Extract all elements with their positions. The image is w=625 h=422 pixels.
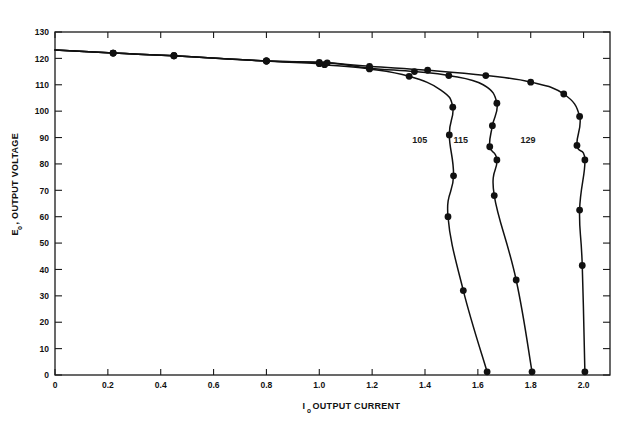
curve-labels: 105115129 [412, 135, 535, 145]
x-tick-label: 0.2 [102, 380, 114, 390]
data-point-105 [449, 104, 456, 111]
x-tick-label: 0 [53, 380, 58, 390]
y-tick-label: 110 [35, 80, 49, 90]
data-point-129 [576, 207, 583, 214]
data-point-115 [411, 68, 418, 75]
y-tick-label: 40 [40, 265, 50, 275]
data-point-129 [171, 52, 178, 59]
curve-label-105: 105 [412, 135, 427, 145]
y-tick-label: 70 [40, 186, 50, 196]
data-point-105 [484, 368, 491, 375]
plot-border [55, 32, 610, 375]
x-axis-ticks: 00.20.40.60.81.01.21.41.61.82.0 [53, 369, 590, 390]
data-point-129 [482, 72, 489, 79]
curve-label-129: 129 [521, 135, 536, 145]
data-point-115 [445, 72, 452, 79]
y-axis-ticks: 0102030405060708090100110120130 [35, 27, 62, 380]
x-tick-label: 1.0 [313, 380, 325, 390]
y-tick-label: 10 [40, 344, 50, 354]
top-axis-ticks [55, 32, 584, 38]
data-point-115 [513, 277, 520, 284]
y-tick-label: 0 [44, 370, 49, 380]
data-point-105 [450, 172, 457, 179]
x-tick-label: 0.8 [261, 380, 273, 390]
axis-titles: IoOUTPUT CURRENTEo, OUTPUT VOLTAGE [10, 133, 400, 413]
y-tick-label: 90 [40, 133, 50, 143]
data-point-115 [489, 122, 496, 129]
data-point-129 [581, 368, 588, 375]
data-point-129 [316, 59, 323, 66]
y-axis-title: Eo, OUTPUT VOLTAGE [10, 133, 23, 235]
curve-129 [55, 50, 585, 372]
y-tick-label: 80 [40, 159, 50, 169]
y-tick-label: 20 [40, 317, 50, 327]
data-curves [55, 50, 585, 372]
data-point-115 [491, 192, 498, 199]
y-axis-title-text: , OUTPUT VOLTAGE [10, 133, 20, 224]
curve-115 [55, 50, 532, 372]
plot-frame [55, 32, 610, 375]
data-point-115 [486, 143, 493, 150]
y-tick-label: 60 [40, 212, 50, 222]
data-point-129 [581, 157, 588, 164]
data-point-129 [574, 142, 581, 149]
x-tick-label: 0.6 [208, 380, 220, 390]
y-tick-label: 130 [35, 27, 49, 37]
x-tick-label: 1.8 [525, 380, 537, 390]
right-axis-ticks [603, 32, 610, 375]
data-point-129 [110, 50, 117, 57]
data-point-105 [406, 73, 413, 80]
y-tick-label: 50 [40, 238, 50, 248]
x-axis-title-text: OUTPUT CURRENT [313, 401, 401, 411]
data-point-115 [493, 157, 500, 164]
x-tick-label: 2.0 [578, 380, 590, 390]
data-markers [110, 50, 589, 376]
data-point-105 [446, 132, 453, 139]
curve-label-115: 115 [453, 135, 468, 145]
data-point-129 [560, 91, 567, 98]
chart-figure: 00.20.40.60.81.01.21.41.61.82.0 01020304… [0, 0, 625, 422]
x-tick-label: 1.6 [472, 380, 484, 390]
x-axis-title-symbol: I [303, 401, 306, 411]
data-point-129 [366, 63, 373, 70]
data-point-129 [576, 113, 583, 120]
x-tick-label: 1.2 [366, 380, 378, 390]
x-tick-label: 0.4 [155, 380, 167, 390]
y-tick-label: 120 [35, 54, 49, 64]
y-tick-label: 100 [35, 106, 49, 116]
y-axis-title-subscript: o [16, 226, 23, 230]
data-point-129 [527, 79, 534, 86]
curve-105 [55, 50, 487, 372]
data-point-129 [263, 58, 270, 65]
data-point-105 [460, 287, 467, 294]
data-point-115 [493, 100, 500, 107]
data-point-129 [424, 67, 431, 74]
x-tick-label: 1.4 [419, 380, 431, 390]
data-point-115 [324, 59, 331, 66]
output-voltage-vs-output-current-chart: 00.20.40.60.81.01.21.41.61.82.0 01020304… [0, 0, 625, 422]
data-point-129 [579, 262, 586, 269]
data-point-105 [445, 213, 452, 220]
data-point-115 [529, 368, 536, 375]
y-tick-label: 30 [40, 291, 50, 301]
x-axis-title-subscript: o [307, 407, 311, 414]
